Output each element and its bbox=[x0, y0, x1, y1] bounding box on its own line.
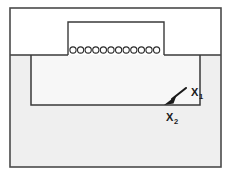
label-x1-subscript: 1 bbox=[199, 92, 203, 101]
figure-canvas: X 1 X 2 bbox=[0, 0, 231, 174]
label-x2-subscript: 2 bbox=[174, 117, 178, 126]
label-x1-base: X bbox=[191, 86, 199, 98]
label-x2-base: X bbox=[166, 111, 174, 123]
figure-svg: X 1 X 2 bbox=[0, 0, 231, 174]
